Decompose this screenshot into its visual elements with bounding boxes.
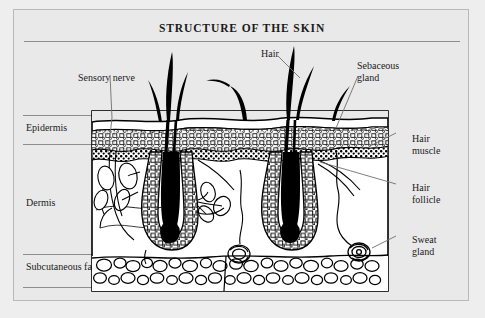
skin-cross-section-diagram (0, 0, 485, 318)
screenshot-root: STRUCTURE OF THE SKIN Epidermis Dermis S… (0, 0, 485, 318)
subcutaneous-fat-band (92, 256, 388, 291)
hair-follicle-right (262, 152, 318, 250)
epidermis-band (92, 111, 388, 162)
hair-follicle-left (142, 152, 198, 250)
